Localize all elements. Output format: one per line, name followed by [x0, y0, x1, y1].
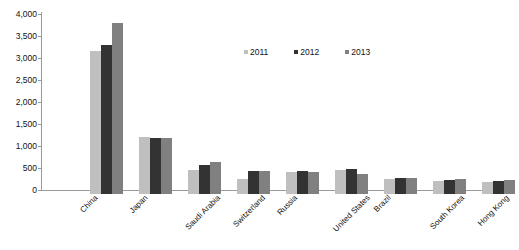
y-axis-tick	[38, 124, 41, 125]
y-axis-tick-label: 0	[32, 186, 37, 195]
bar-group	[278, 14, 327, 194]
bar	[444, 180, 455, 194]
y-axis-tick-label: 500	[23, 164, 37, 173]
bar	[259, 171, 270, 194]
bar-group	[425, 14, 474, 194]
y-axis-tick-label: 1,500	[16, 120, 37, 129]
bar	[188, 170, 199, 194]
bar-group	[327, 14, 376, 194]
y-axis-tick-label: 4,000	[16, 10, 37, 19]
y-axis: 05001,0001,5002,0002,5003,0003,5004,000	[0, 0, 37, 250]
bar	[112, 23, 123, 194]
x-axis-tick-label: Switzerland	[232, 194, 267, 229]
bar	[335, 170, 346, 194]
bar-group-bars	[425, 14, 474, 194]
bar	[297, 171, 308, 194]
x-axis-tick-label: United States	[332, 194, 372, 234]
y-axis-tick	[38, 58, 41, 59]
bar	[161, 138, 172, 194]
bar	[395, 178, 406, 194]
legend-swatch-icon	[345, 50, 349, 54]
legend-item-2013: 2013	[345, 48, 370, 57]
x-axis-tick-label: South Korea	[429, 194, 466, 231]
legend-label: 2012	[300, 48, 319, 57]
x-axis-tick-label: China	[79, 194, 99, 214]
y-axis-tick-label: 1,000	[16, 142, 37, 151]
bar	[346, 169, 357, 194]
legend-item-2012: 2012	[294, 48, 319, 57]
y-axis-tick	[38, 102, 41, 103]
legend-label: 2013	[351, 48, 370, 57]
bar-group-bars	[229, 14, 278, 194]
bar	[210, 162, 221, 194]
bar-group-bars	[474, 14, 519, 194]
bar	[504, 180, 515, 194]
bar-group-bars	[131, 14, 180, 194]
bar	[237, 179, 248, 194]
legend-label: 2011	[250, 48, 268, 57]
bar	[308, 172, 319, 194]
x-axis-tick-label: Brazil	[372, 194, 392, 214]
bar-group-bars	[376, 14, 425, 194]
bar-group-bars	[82, 14, 131, 194]
bar	[139, 137, 150, 194]
bar-group	[229, 14, 278, 194]
bar	[101, 45, 112, 194]
bar	[286, 172, 297, 194]
bar	[357, 174, 368, 194]
bar	[384, 179, 395, 194]
bar	[482, 182, 493, 194]
y-axis-tick	[38, 14, 41, 15]
y-axis-tick-label: 3,000	[16, 54, 37, 63]
x-axis-tick-label: Russia	[276, 194, 299, 217]
x-axis-tick-label: Hong Kong	[476, 194, 510, 228]
bar-group	[180, 14, 229, 194]
bar	[199, 165, 210, 194]
y-axis-tick-label: 3,500	[16, 32, 37, 41]
bar-group-bars	[180, 14, 229, 194]
legend-swatch-icon	[244, 50, 248, 54]
bar-group	[474, 14, 519, 194]
bar	[493, 181, 504, 194]
bar	[433, 181, 444, 194]
bar	[150, 138, 161, 194]
bar	[90, 51, 101, 194]
legend-swatch-icon	[294, 50, 298, 54]
bar-group-bars	[278, 14, 327, 194]
y-axis-tick-label: 2,000	[16, 98, 37, 107]
bar-group	[376, 14, 425, 194]
x-axis-tick-label: Japan	[128, 194, 149, 215]
bar	[406, 178, 417, 194]
y-axis-tick	[38, 36, 41, 37]
y-axis-tick	[38, 168, 41, 169]
bar	[455, 179, 466, 194]
x-axis-tick-label: Saudi Arabia	[184, 194, 222, 232]
legend-item-2011: 2011	[244, 48, 268, 57]
y-axis-tick	[38, 190, 41, 191]
y-axis-tick	[38, 80, 41, 81]
bar-group	[82, 14, 131, 194]
y-axis-tick	[38, 146, 41, 147]
plot-area	[41, 10, 481, 190]
chart-legend: 2011 2012 2013	[244, 48, 370, 57]
bar-group-bars	[327, 14, 376, 194]
bar-group	[131, 14, 180, 194]
bar	[248, 171, 259, 194]
y-axis-tick-label: 2,500	[16, 76, 37, 85]
